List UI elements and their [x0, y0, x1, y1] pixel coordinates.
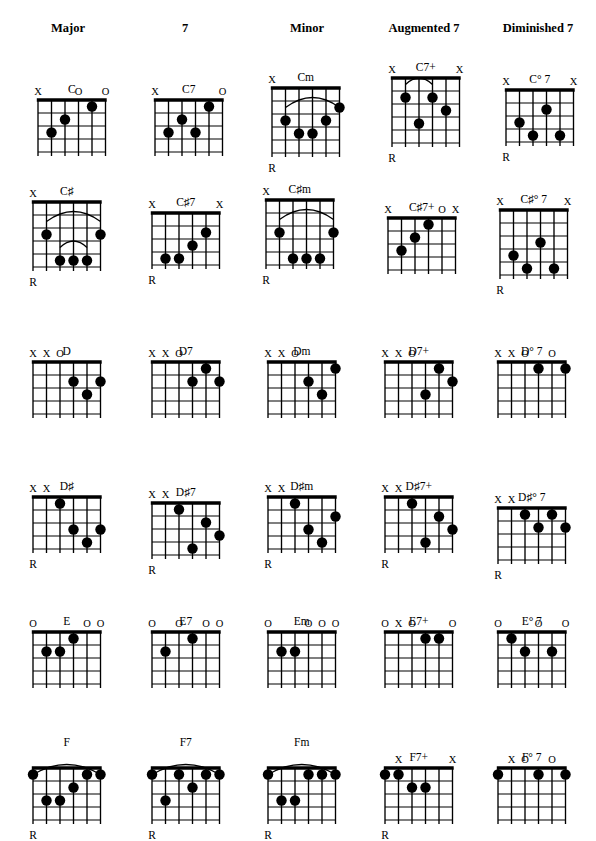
fretboard-grid: [261, 336, 343, 420]
finger-dot: [307, 128, 317, 138]
finger-dot: [506, 633, 516, 643]
chord-diagram-Csharp7plus: C♯7+XOX: [388, 218, 458, 272]
finger-dot: [321, 115, 331, 125]
chord-diagram-Dsharp7plus: D♯7+XXR: [385, 497, 455, 551]
chord-diagram-Dsharpm: D♯mXXR: [268, 497, 338, 551]
finger-dot: [201, 517, 211, 527]
finger-dot: [330, 769, 340, 779]
column-header-augmented-7: Augmented 7: [388, 21, 459, 36]
chord-diagram-E7: E7OOOO: [152, 632, 222, 686]
fretboard-grid: [261, 606, 343, 690]
column-header-major: Major: [51, 21, 85, 36]
finger-dot: [317, 389, 327, 399]
finger-dot: [533, 522, 543, 532]
finger-dot: [303, 769, 313, 779]
finger-dot: [555, 130, 565, 140]
finger-dot: [301, 253, 311, 263]
finger-dot: [201, 769, 211, 779]
finger-dot: [493, 769, 503, 779]
chord-diagram-Csharp7: C♯7XXR: [152, 213, 222, 267]
finger-dot: [41, 646, 51, 656]
chord-diagram-Ddim7: D° 7XXOO: [498, 362, 568, 416]
finger-dot: [274, 227, 284, 237]
finger-dot: [317, 769, 327, 779]
finger-dot: [187, 633, 197, 643]
fretboard-grid: [145, 477, 227, 561]
finger-dot: [396, 245, 406, 255]
finger-dot: [160, 253, 170, 263]
finger-dot: [163, 127, 173, 137]
finger-dot: [334, 102, 344, 112]
fretboard-grid: [491, 742, 573, 826]
finger-dot: [420, 389, 430, 399]
finger-dot: [427, 92, 437, 102]
chord-diagram-F7plus: F7+XXR: [385, 768, 455, 822]
finger-dot: [187, 240, 197, 250]
finger-dot: [214, 530, 224, 540]
fretboard-grid: [261, 471, 343, 555]
finger-dot: [187, 543, 197, 553]
finger-dot: [174, 253, 184, 263]
chord-diagram-Cm: CmXR: [272, 88, 342, 155]
finger-dot: [68, 376, 78, 386]
finger-dot: [400, 92, 410, 102]
fretboard-grid: [381, 192, 463, 276]
finger-dot: [201, 363, 211, 373]
finger-dot: [303, 524, 313, 534]
finger-dot: [528, 130, 538, 140]
chord-diagram-Fdim7: F° 7XOO: [498, 768, 568, 822]
finger-dot: [514, 117, 524, 127]
chord-diagram-Csharpm: C♯mXR: [266, 200, 336, 267]
finger-dot: [447, 524, 457, 534]
finger-dot: [533, 363, 543, 373]
finger-dot: [441, 105, 451, 115]
finger-dot: [303, 376, 313, 386]
fretboard-grid: [378, 742, 460, 826]
finger-dot: [41, 795, 51, 805]
column-header-7: 7: [182, 21, 188, 36]
root-string-label: R: [381, 829, 389, 841]
fretboard-grid: [491, 606, 573, 690]
finger-dot: [560, 769, 570, 779]
chord-diagram-Csharp: C♯XR: [33, 202, 103, 269]
fretboard-grid: [26, 606, 108, 690]
finger-dot: [547, 646, 557, 656]
finger-dot: [549, 263, 559, 273]
fretboard-grid: [26, 742, 108, 826]
finger-dot: [68, 782, 78, 792]
column-header-diminished-7: Diminished 7: [503, 21, 574, 36]
fretboard-grid: [259, 174, 341, 271]
finger-dot: [276, 646, 286, 656]
chord-diagram-F: FR: [33, 768, 103, 822]
chord-diagram-C7: C7XO: [155, 100, 225, 154]
finger-dot: [160, 795, 170, 805]
finger-dot: [263, 769, 273, 779]
fretboard-grid: [265, 62, 347, 159]
finger-dot: [330, 363, 340, 373]
finger-dot: [533, 769, 543, 779]
fretboard-grid: [261, 742, 343, 826]
root-string-label: R: [29, 558, 37, 570]
fretboard-grid: [31, 74, 113, 158]
finger-dot: [190, 127, 200, 137]
finger-dot: [187, 376, 197, 386]
finger-dot: [520, 509, 530, 519]
finger-dot: [46, 127, 56, 137]
finger-dot: [174, 769, 184, 779]
finger-dot: [547, 509, 557, 519]
root-string-label: R: [148, 829, 156, 841]
root-string-label: R: [494, 569, 502, 581]
finger-dot: [60, 114, 70, 124]
chord-diagram-F7: F7R: [152, 768, 222, 822]
finger-dot: [95, 524, 105, 534]
fretboard-grid: [493, 184, 575, 281]
finger-dot: [95, 769, 105, 779]
root-string-label: R: [388, 152, 396, 164]
column-header-minor: Minor: [290, 21, 324, 36]
finger-dot: [214, 376, 224, 386]
finger-dot: [407, 498, 417, 508]
fretboard-grid: [385, 52, 467, 149]
finger-dot: [276, 795, 286, 805]
finger-dot: [82, 389, 92, 399]
chord-diagram-E: EOOO: [33, 632, 103, 686]
